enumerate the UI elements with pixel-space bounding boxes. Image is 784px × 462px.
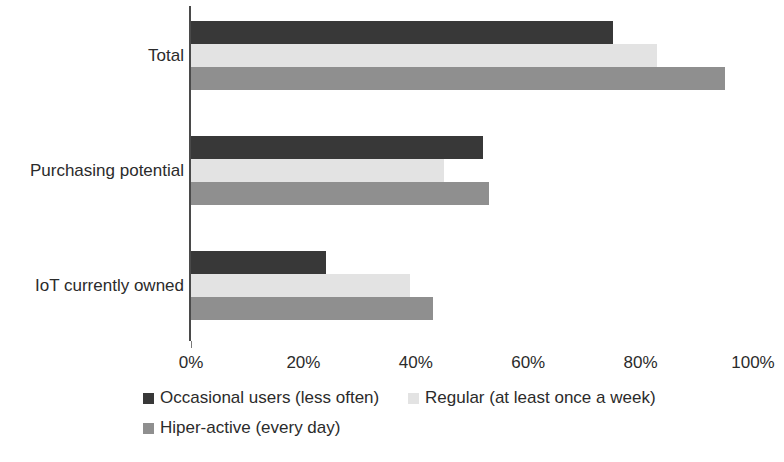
legend-label: Regular (at least once a week)	[425, 388, 656, 408]
x-tick-label: 60%	[488, 353, 568, 373]
x-tick-mark	[191, 341, 192, 348]
x-tick-label: 20%	[263, 353, 343, 373]
category-label: Total	[4, 46, 184, 65]
legend-item[interactable]: Regular (at least once a week)	[408, 388, 656, 408]
bar	[191, 251, 326, 274]
legend-swatch-icon	[408, 393, 419, 404]
legend-item[interactable]: Occasional users (less often)	[143, 388, 379, 408]
bar	[191, 274, 410, 297]
x-tick-label: 100%	[713, 353, 784, 373]
legend-label: Hiper-active (every day)	[160, 418, 340, 438]
legend-swatch-icon	[143, 393, 154, 404]
legend-item[interactable]: Hiper-active (every day)	[143, 418, 340, 438]
x-axis: 0%20%40%60%80%100%	[0, 341, 784, 371]
bar-group: Total	[0, 21, 784, 90]
x-tick-label: 80%	[601, 353, 681, 373]
legend-swatch-icon	[143, 423, 154, 434]
bar	[191, 136, 483, 159]
bar	[191, 182, 489, 205]
category-label: IoT currently owned	[4, 276, 184, 295]
bar-group: Purchasing potential	[0, 136, 784, 205]
x-tick-label: 0%	[151, 353, 231, 373]
bar	[191, 159, 444, 182]
chart-legend: Occasional users (less often)Regular (at…	[0, 388, 784, 458]
x-tick-label: 40%	[376, 353, 456, 373]
bar	[191, 297, 433, 320]
category-label: Purchasing potential	[4, 161, 184, 180]
legend-label: Occasional users (less often)	[160, 388, 379, 408]
bar	[191, 67, 725, 90]
bar-chart: TotalPurchasing potentialIoT currently o…	[0, 0, 784, 462]
bar	[191, 21, 613, 44]
plot-area: TotalPurchasing potentialIoT currently o…	[0, 0, 784, 340]
bar	[191, 44, 657, 67]
bar-group: IoT currently owned	[0, 251, 784, 320]
